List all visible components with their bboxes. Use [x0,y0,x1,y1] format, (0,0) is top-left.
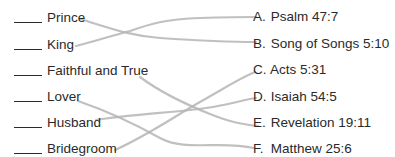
right-item-letter: F. [253,141,267,157]
right-item-reference: Psalm 47:7 [271,9,339,24]
line-prince-to-b [80,19,256,42]
right-item-reference: Acts 5:31 [270,62,326,77]
right-item-reference: Isaiah 54:5 [271,89,337,104]
left-item: Husband [14,115,101,131]
left-item: Faithful and True [14,63,148,79]
right-item-letter: D. [253,89,267,105]
right-item: B. Song of Songs 5:10 [253,36,389,52]
answer-blank[interactable] [14,127,42,128]
left-item: Prince [14,10,85,26]
right-item: F. Matthew 25:6 [253,141,352,157]
line-faithful-to-e [140,77,258,126]
line-bridegroom-to-c [115,72,255,150]
left-item: Lover [14,89,81,105]
right-item-letter: B. [253,36,267,52]
right-item: E. Revelation 19:11 [253,115,371,131]
left-item-label: Faithful and True [47,63,148,78]
right-item-reference: Matthew 25:6 [271,141,352,156]
answer-blank[interactable] [14,49,42,50]
left-item-label: Bridegroom [47,141,117,156]
right-item: C. Acts 5:31 [253,62,326,78]
right-item-letter: C. [253,62,267,78]
right-item: D. Isaiah 54:5 [253,89,337,105]
right-item-reference: Song of Songs 5:10 [271,36,390,51]
left-item-label: Husband [47,115,101,130]
line-king-to-a [76,17,256,46]
left-item-label: King [47,37,74,52]
left-item-label: Lover [47,89,81,104]
right-item-letter: E. [253,115,267,131]
line-husband-to-d [96,98,256,120]
left-item: Bridegroom [14,141,117,157]
left-item-label: Prince [47,10,85,25]
answer-blank[interactable] [14,75,42,76]
answer-blank[interactable] [14,153,42,154]
right-item-letter: A. [253,9,267,25]
answer-blank[interactable] [14,22,42,23]
right-item-reference: Revelation 19:11 [271,115,371,130]
right-item: A. Psalm 47:7 [253,9,338,25]
answer-blank[interactable] [14,101,42,102]
left-item: King [14,37,74,53]
